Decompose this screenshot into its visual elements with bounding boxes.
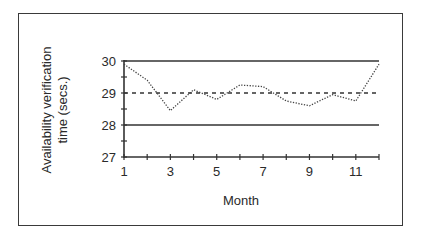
x-tick-label: 1 [120, 164, 127, 179]
x-axis-label: Month [223, 193, 259, 208]
x-tick-label: 9 [306, 164, 313, 179]
y-tick-label: 30 [102, 54, 116, 69]
x-tick-label: 3 [167, 164, 174, 179]
y-axis-label-line-2: time (secs.) [55, 47, 71, 174]
y-tick-label: 29 [102, 86, 116, 101]
y-axis-label-line-1: Availability verification [39, 47, 55, 174]
y-tick-label: 28 [102, 118, 116, 133]
x-tick-label: 7 [259, 164, 266, 179]
y-tick-label: 27 [102, 150, 116, 165]
data-series-line [124, 64, 379, 110]
x-tick-label: 5 [213, 164, 220, 179]
x-tick-label: 11 [349, 164, 363, 179]
y-axis-label: Availability verification time (secs.) [39, 47, 71, 174]
